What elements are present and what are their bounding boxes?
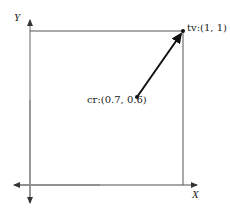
coordinate-diagram: Y X tv:(1, 1) cr:(0.7, 0.6) bbox=[0, 0, 230, 210]
point-tv bbox=[181, 29, 185, 33]
vector-arrow bbox=[137, 34, 181, 97]
y-axis-label: Y bbox=[14, 11, 22, 23]
tv-label: tv:(1, 1) bbox=[187, 22, 227, 33]
cr-label: cr:(0.7, 0.6) bbox=[87, 94, 147, 105]
x-axis-label: X bbox=[191, 188, 200, 200]
